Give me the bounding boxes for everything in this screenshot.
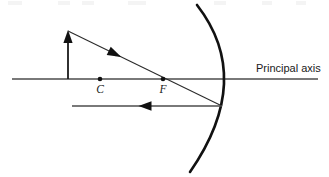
principal-axis-label: Principal axis — [256, 62, 321, 74]
center-of-curvature-label: C — [96, 83, 104, 95]
object-arrow-head — [63, 30, 72, 43]
focal-point-dot — [161, 77, 166, 82]
focal-point-label: F — [158, 83, 167, 95]
concave-mirror-arc — [190, 5, 224, 172]
incident-ray-line — [68, 31, 222, 106]
ray-diagram-canvas: C F Principal axis — [0, 0, 329, 177]
incident-ray-arrow-head — [107, 47, 122, 57]
center-of-curvature-dot — [98, 77, 103, 82]
reflected-ray-arrow-head — [139, 101, 152, 111]
concave-mirror-ray-diagram: C F Principal axis — [0, 0, 329, 177]
